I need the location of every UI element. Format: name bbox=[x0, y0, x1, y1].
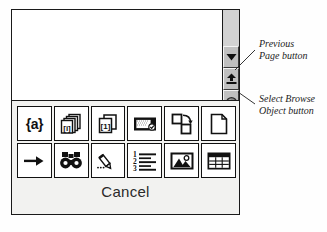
go-to-button[interactable] bbox=[17, 143, 52, 178]
browse-by-table-button[interactable] bbox=[201, 143, 236, 178]
browse-by-edits-button[interactable] bbox=[91, 143, 126, 178]
browse-by-section-button[interactable] bbox=[164, 106, 199, 141]
annotation-previous-page: Previous Page button bbox=[259, 38, 308, 62]
comment-note-icon bbox=[132, 112, 158, 136]
page-icon bbox=[208, 112, 230, 136]
browse-by-heading-button[interactable]: 1 2 3 bbox=[127, 143, 162, 178]
cancel-label[interactable]: Cancel bbox=[12, 183, 239, 200]
scrollbar-thumb[interactable] bbox=[223, 10, 239, 46]
endnote-stack-icon: [i] bbox=[59, 112, 83, 136]
screenshot-root: {a} [i] [1] bbox=[0, 0, 327, 232]
browse-by-graphic-button[interactable] bbox=[164, 143, 199, 178]
field-braces-icon: {a} bbox=[26, 117, 43, 131]
svg-text:[1]: [1] bbox=[101, 122, 111, 131]
binoculars-icon bbox=[59, 150, 83, 172]
select-browse-object-popup: {a} [i] [1] bbox=[11, 100, 240, 215]
table-grid-icon bbox=[206, 150, 232, 172]
scroll-down-button[interactable] bbox=[223, 46, 239, 68]
annotation-browse-object: Select Browse Object button bbox=[259, 93, 315, 117]
find-button[interactable] bbox=[54, 143, 89, 178]
double-up-arrow-icon bbox=[226, 73, 237, 85]
triangle-down-icon bbox=[226, 53, 237, 61]
browse-by-comment-button[interactable] bbox=[127, 106, 162, 141]
picture-icon bbox=[169, 150, 195, 172]
browse-by-footnote-button[interactable]: [1] bbox=[91, 106, 126, 141]
section-arrow-icon bbox=[170, 112, 194, 136]
annotation-previous-page-line2: Page button bbox=[259, 50, 308, 62]
browse-by-page-button[interactable] bbox=[201, 106, 236, 141]
browse-by-endnote-button[interactable]: [i] bbox=[54, 106, 89, 141]
previous-page-button[interactable] bbox=[223, 68, 239, 90]
annotation-browse-object-line1: Select Browse bbox=[259, 93, 315, 105]
svg-text:[i]: [i] bbox=[63, 123, 71, 132]
annotation-browse-object-line2: Object button bbox=[259, 105, 315, 117]
numbered-list-icon: 1 2 3 bbox=[132, 150, 158, 172]
annotation-previous-page-line1: Previous bbox=[259, 38, 308, 50]
right-arrow-icon bbox=[21, 151, 47, 171]
browse-object-grid: {a} [i] [1] bbox=[17, 106, 236, 178]
vertical-scrollbar[interactable] bbox=[222, 10, 239, 114]
footnote-page-icon: [1] bbox=[96, 112, 120, 136]
svg-text:3: 3 bbox=[133, 164, 137, 172]
pencil-edits-icon bbox=[95, 150, 121, 172]
browse-by-field-button[interactable]: {a} bbox=[17, 106, 52, 141]
